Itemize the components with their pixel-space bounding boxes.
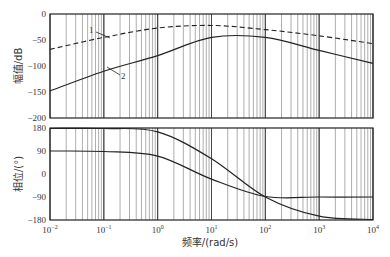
x-axis-label: 频率/(rad/s) <box>182 236 238 248</box>
x-tick-label: 101 <box>206 224 218 235</box>
x-tick-label: 103 <box>313 224 325 235</box>
x-tick-label: 10−2 <box>42 224 57 235</box>
curve-2-label: 2 <box>121 71 126 81</box>
magnitude-y-label: 幅值/dB <box>12 48 24 85</box>
svg-text:−90: −90 <box>32 192 47 202</box>
svg-text:90: 90 <box>37 146 47 156</box>
x-axis-ticks: 10−210−1100101102103104 <box>42 224 379 235</box>
curve-1-label: 1 <box>89 25 94 35</box>
phase-grid <box>50 128 373 220</box>
svg-text:180: 180 <box>33 123 47 133</box>
svg-text:−50: −50 <box>32 35 47 45</box>
magnitude-grid <box>50 14 373 118</box>
svg-text:−100: −100 <box>27 61 46 71</box>
svg-text:−150: −150 <box>27 87 46 97</box>
curve-1-leader <box>96 32 110 38</box>
phase-y-label: 相位/(°) <box>12 156 24 192</box>
x-tick-label: 104 <box>367 224 379 235</box>
bode-plot: 1 2 0 −50 −100 −150 −200 180 90 0 −90 −1… <box>0 0 390 257</box>
x-tick-label: 100 <box>152 224 164 235</box>
svg-text:−200: −200 <box>27 113 46 123</box>
x-tick-label: 102 <box>259 224 271 235</box>
x-tick-label: 10−1 <box>96 224 111 235</box>
svg-text:0: 0 <box>42 9 47 19</box>
phase-y-ticks: 180 90 0 −90 −180 <box>27 123 46 225</box>
magnitude-y-ticks: 0 −50 −100 −150 −200 <box>27 9 46 123</box>
svg-text:−180: −180 <box>27 215 46 225</box>
svg-text:0: 0 <box>42 169 47 179</box>
